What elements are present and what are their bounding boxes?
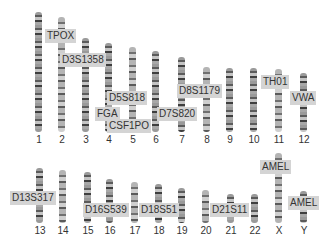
chromosome-number: Y	[294, 225, 314, 236]
chromosome-9	[226, 68, 233, 132]
chromosome-number: 9	[220, 134, 240, 145]
chromosome-20	[202, 190, 209, 223]
chromosome-number: 5	[123, 134, 143, 145]
chromosome-number: 7	[172, 134, 192, 145]
chromosome-number: X	[269, 225, 289, 236]
chromosome-10	[250, 68, 257, 132]
locus-label: D3S1358	[60, 53, 106, 67]
chromosome-number: 22	[245, 225, 265, 236]
locus-label: TPOX	[45, 29, 76, 43]
chromosome-number: 1	[29, 134, 49, 145]
locus-label: D7S820	[157, 107, 197, 121]
locus-label: VWA	[290, 91, 316, 105]
chromosome-number: 11	[269, 134, 289, 145]
chromosome-number: 12	[294, 134, 314, 145]
locus-label: AMEL	[288, 196, 319, 210]
chromosome-8	[203, 67, 210, 132]
locus-label: CSF1PO	[107, 119, 151, 133]
locus-label: D8S1179	[177, 84, 222, 98]
chromosome-number: 16	[100, 225, 120, 236]
chromosome-number: 17	[125, 225, 145, 236]
chromosome-number: 15	[78, 225, 98, 236]
chromosome-number: 10	[244, 134, 264, 145]
chromosome-number: 20	[196, 225, 216, 236]
chromosome-number: 6	[146, 134, 166, 145]
chromosome-number: 13	[30, 225, 50, 236]
chromosome-14	[59, 170, 66, 223]
locus-label: AMEL	[260, 160, 291, 174]
chromosome-number: 18	[149, 225, 169, 236]
locus-label: D16S539	[83, 203, 129, 217]
locus-label: D18S51	[139, 203, 179, 217]
chromosome-22	[251, 194, 258, 223]
locus-label: D13S317	[10, 191, 56, 205]
chromosome-number: 2	[52, 134, 72, 145]
locus-label: D5S818	[107, 91, 147, 105]
chromosome-number: 19	[172, 225, 192, 236]
chromosome-number: 3	[76, 134, 96, 145]
locus-label: TH01	[261, 75, 289, 89]
locus-label: D21S11	[210, 203, 249, 217]
chromosome-1	[35, 12, 42, 132]
chromosome-number: 14	[53, 225, 73, 236]
chromosome-number: 8	[197, 134, 217, 145]
chromosome-17	[131, 182, 138, 223]
chromosome-number: 4	[99, 134, 119, 145]
chromosome-number: 21	[221, 225, 241, 236]
